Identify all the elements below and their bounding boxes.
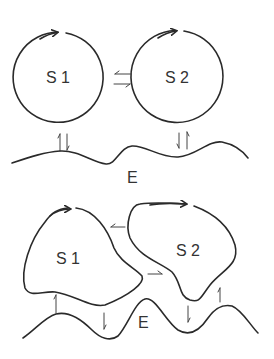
e-to-s2-arrow-icon bbox=[218, 288, 220, 302]
cycle-arrow-icon bbox=[150, 203, 186, 205]
systems-environment-diagram: S 1 S 2 E S 1 bbox=[0, 0, 274, 359]
s1-to-e-arrow-icon bbox=[104, 313, 106, 329]
s2-blob: S 2 bbox=[128, 203, 236, 301]
s2-circle: S 2 bbox=[131, 31, 223, 123]
e-to-s1-arrow-icon bbox=[54, 295, 56, 313]
top-panel: S 1 S 2 E bbox=[12, 31, 248, 187]
s2-e-exchange-arrows-icon bbox=[177, 132, 189, 149]
s1-circle: S 1 bbox=[13, 32, 103, 122]
s1-blob: S 1 bbox=[24, 208, 143, 305]
s1-label: S 1 bbox=[56, 250, 80, 267]
s2-to-s1-arrow-icon bbox=[111, 224, 125, 227]
s2-label: S 2 bbox=[176, 242, 200, 259]
s1-s2-exchange-arrows-icon bbox=[114, 71, 131, 87]
s1-e-exchange-arrows-icon bbox=[58, 134, 69, 151]
s1-to-s2-arrow-icon bbox=[148, 271, 162, 274]
s1-label: S 1 bbox=[46, 69, 70, 86]
environment-label: E bbox=[138, 314, 149, 331]
bottom-panel: S 1 S 2 E bbox=[23, 203, 258, 339]
environment-label: E bbox=[127, 169, 138, 186]
environment-boundary bbox=[12, 142, 248, 164]
s2-to-e-arrow-icon bbox=[188, 306, 190, 322]
s2-label: S 2 bbox=[165, 69, 189, 86]
